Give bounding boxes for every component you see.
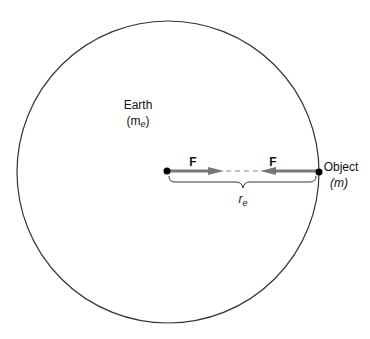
earth-gravity-diagram: Earth (me) F F re Object (m) — [0, 0, 370, 339]
earth-label: Earth — [124, 98, 153, 112]
object-dot — [316, 169, 323, 176]
earth-mass-label: (me) — [126, 114, 149, 129]
distance-brace — [169, 176, 316, 188]
object-label: Object — [324, 160, 359, 174]
distance-label: re — [238, 192, 247, 208]
force-label-left: F — [189, 155, 196, 169]
force-label-right: F — [269, 155, 276, 169]
diagram-canvas: Earth (me) F F re Object (m) — [0, 0, 370, 339]
arrowhead-right-icon — [208, 167, 224, 175]
object-mass-label: (m) — [330, 176, 348, 190]
earth-center-dot — [164, 168, 171, 175]
